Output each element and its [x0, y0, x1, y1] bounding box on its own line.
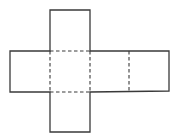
fold-lines: [50, 51, 129, 92]
cube-net-diagram: [0, 0, 179, 139]
